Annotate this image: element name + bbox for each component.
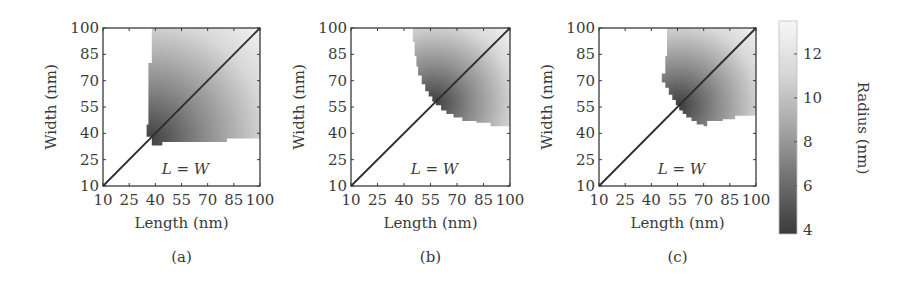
x-tick-label: 55 [668, 191, 687, 209]
colorbar-tick-label: 8 [803, 133, 813, 151]
y-axis-label: Width (nm) [290, 64, 308, 150]
x-tick-label: 40 [146, 191, 165, 209]
y-tick-label: 55 [80, 98, 99, 116]
x-tick-label: 40 [394, 191, 413, 209]
x-tick-label: 55 [421, 191, 440, 209]
y-tick-label: 85 [576, 45, 595, 63]
y-tick-label: 85 [328, 45, 347, 63]
y-tick-label: 10 [576, 177, 595, 195]
colorbar-tick-label: 6 [803, 177, 813, 195]
y-tick-label: 40 [576, 124, 595, 142]
x-tick-label: 100 [496, 191, 525, 209]
colorbar-tick-label: 10 [803, 89, 822, 107]
x-tick-label: 100 [246, 191, 275, 209]
panel-label: (a) [171, 248, 192, 266]
equality-annotation: L = W [161, 160, 211, 178]
y-tick-label: 85 [80, 45, 99, 63]
y-tick-label: 70 [80, 72, 99, 90]
x-tick-label: 85 [224, 191, 243, 209]
x-axis-label: Length (nm) [630, 214, 724, 232]
y-axis-label: Width (nm) [538, 64, 556, 150]
y-tick-label: 25 [576, 151, 595, 169]
y-tick-label: 25 [328, 151, 347, 169]
x-tick-label: 85 [720, 191, 739, 209]
x-tick-label: 25 [368, 191, 387, 209]
y-axis-label: Width (nm) [42, 64, 60, 150]
y-tick-label: 10 [328, 177, 347, 195]
x-tick-label: 85 [474, 191, 493, 209]
colorbar-scale [779, 21, 797, 234]
colorbar-tick-label: 4 [803, 221, 813, 239]
y-tick-label: 10 [80, 177, 99, 195]
x-tick-label: 25 [616, 191, 635, 209]
x-tick-label: 55 [172, 191, 191, 209]
colorbar-label: Radius (nm) [854, 82, 872, 175]
figure: 102540557085100102540557085100Length (nm… [0, 0, 903, 285]
y-tick-label: 25 [80, 151, 99, 169]
panel-a: 102540557085100102540557085100Length (nm… [42, 19, 274, 266]
colorbar: 4681012 Radius (nm) [779, 21, 872, 239]
x-tick-label: 100 [742, 191, 771, 209]
y-tick-label: 55 [576, 98, 595, 116]
x-tick-label: 40 [642, 191, 661, 209]
equality-annotation: L = W [657, 160, 707, 178]
x-axis-label: Length (nm) [134, 214, 228, 232]
y-tick-label: 40 [328, 124, 347, 142]
x-tick-label: 70 [198, 191, 217, 209]
y-tick-label: 100 [566, 19, 595, 37]
y-tick-label: 40 [80, 124, 99, 142]
x-tick-label: 25 [120, 191, 139, 209]
equality-annotation: L = W [410, 160, 460, 178]
colorbar-tick-label: 12 [803, 45, 822, 63]
y-tick-label: 100 [318, 19, 347, 37]
panel-c: 102540557085100102540557085100Length (nm… [538, 19, 770, 266]
y-tick-label: 55 [328, 98, 347, 116]
panel-b: 102540557085100102540557085100Length (nm… [290, 19, 524, 266]
y-tick-label: 70 [576, 72, 595, 90]
panel-label: (b) [420, 248, 441, 266]
y-tick-label: 100 [70, 19, 99, 37]
x-axis-label: Length (nm) [383, 214, 477, 232]
x-tick-label: 70 [447, 191, 466, 209]
panel-label: (c) [667, 248, 687, 266]
y-tick-label: 70 [328, 72, 347, 90]
x-tick-label: 70 [694, 191, 713, 209]
